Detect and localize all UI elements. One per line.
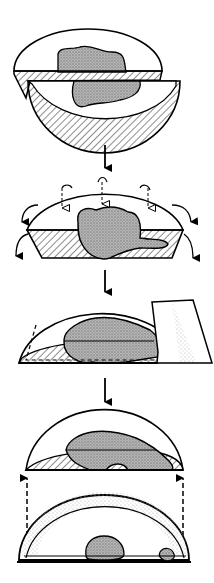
stage-3-blade-cut <box>19 300 212 364</box>
stage-4-section-and-shell <box>17 410 191 562</box>
process-diagram <box>0 0 214 583</box>
stage-2-dome-spreading <box>16 178 193 259</box>
stage-1-cut-hemisphere <box>14 29 180 153</box>
